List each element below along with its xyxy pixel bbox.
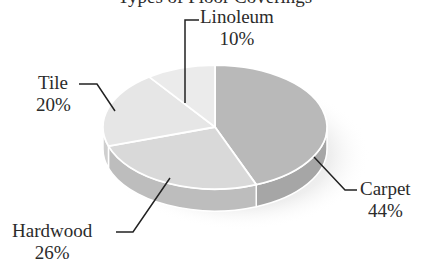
label-linoleum-name: Linoleum	[200, 6, 274, 28]
label-tile: Tile 20%	[36, 72, 71, 116]
label-linoleum-value: 10%	[200, 28, 274, 50]
label-tile-value: 20%	[36, 94, 71, 116]
label-tile-name: Tile	[38, 72, 71, 94]
pie-top-slices	[103, 65, 327, 189]
label-linoleum: Linoleum 10%	[200, 6, 274, 50]
label-hardwood-value: 26%	[12, 242, 92, 264]
label-carpet-name: Carpet	[360, 178, 411, 200]
label-carpet: Carpet 44%	[360, 178, 411, 222]
label-hardwood: Hardwood 26%	[12, 220, 92, 264]
label-carpet-value: 44%	[360, 200, 411, 222]
label-hardwood-name: Hardwood	[12, 220, 92, 242]
